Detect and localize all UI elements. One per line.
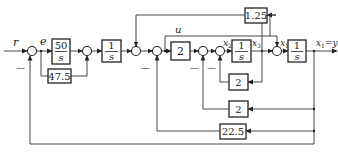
svg-text:s: s — [239, 51, 244, 62]
block-50-num: 50 — [55, 40, 68, 51]
svg-text:22.5: 22.5 — [222, 126, 244, 137]
label-r: r — [13, 36, 19, 49]
summing-junction-4 — [153, 47, 162, 56]
summing-junction-1 — [28, 47, 37, 56]
svg-text:2: 2 — [235, 77, 241, 88]
svg-text:2: 2 — [235, 104, 241, 115]
label-e: e — [40, 35, 47, 48]
svg-text:1: 1 — [108, 40, 114, 51]
minus-sign-sum6: — — [207, 63, 216, 73]
minus-sign-sum1: — — [16, 63, 25, 73]
label-x3: x3 — [252, 38, 261, 49]
svg-text:1.25: 1.25 — [245, 10, 267, 21]
svg-text:2: 2 — [177, 45, 184, 58]
block-diagram: r e u 50 s 1 s 2 1 s 1 s 47.5 1.25 2 2 2… — [0, 0, 338, 153]
svg-text:s: s — [294, 51, 299, 62]
summing-junction-5 — [199, 47, 208, 56]
block-50-den: s — [58, 52, 63, 63]
svg-text:47.5: 47.5 — [48, 71, 70, 82]
svg-text:s: s — [109, 51, 114, 62]
minus-sign-sum5: — — [190, 63, 199, 73]
svg-text:1: 1 — [238, 40, 244, 51]
minus-sign-sum4: — — [141, 63, 150, 73]
summing-junction-2 — [83, 47, 92, 56]
summing-junction-3 — [132, 47, 141, 56]
label-output: x1=y — [316, 38, 338, 49]
label-u: u — [175, 24, 181, 35]
label-x2: x2 — [223, 38, 232, 49]
svg-text:1: 1 — [294, 40, 300, 51]
